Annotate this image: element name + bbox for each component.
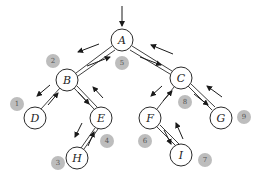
arrow-c-to-a xyxy=(151,45,173,54)
badge-3: 3 xyxy=(51,156,65,170)
node-a: A xyxy=(111,29,133,51)
traversal-arrows xyxy=(37,44,222,146)
node-i: I xyxy=(170,144,192,166)
tree-diagram: A B C D E F G H I 1 2 3 xyxy=(0,0,259,183)
node-label-g: G xyxy=(217,112,226,125)
edge-c-g xyxy=(188,86,212,110)
arrow-e-to-b xyxy=(93,87,103,98)
node-label-c: C xyxy=(177,72,186,85)
badge-2: 2 xyxy=(46,54,60,68)
badge-label-5: 5 xyxy=(120,59,124,67)
node-c: C xyxy=(170,67,192,89)
badge-label-8: 8 xyxy=(183,98,187,106)
node-d: D xyxy=(24,107,46,129)
node-e: E xyxy=(90,107,112,129)
edge-a-b-inner xyxy=(78,50,115,76)
badge-9: 9 xyxy=(237,110,251,124)
badge-5: 5 xyxy=(115,56,129,70)
arrow-e-to-h xyxy=(75,123,82,137)
arrow-f-to-c xyxy=(163,91,172,101)
node-h: H xyxy=(66,147,88,169)
edge-b-d xyxy=(41,88,60,109)
badge-8: 8 xyxy=(178,95,192,109)
arrow-b-to-a xyxy=(87,57,110,66)
arrow-i-to-f xyxy=(176,123,183,139)
edge-c-g-inner xyxy=(191,84,215,107)
arrow-b-to-d xyxy=(37,85,50,96)
node-label-i: I xyxy=(178,149,184,162)
edge-a-c xyxy=(132,46,172,71)
badge-label-2: 2 xyxy=(51,57,55,65)
badge-7: 7 xyxy=(198,153,212,167)
node-label-h: H xyxy=(71,152,82,165)
node-b: B xyxy=(56,69,78,91)
arrow-g-to-c xyxy=(207,86,222,97)
arrow-c-to-g xyxy=(194,94,208,105)
node-label-b: B xyxy=(62,74,71,87)
badge-label-6: 6 xyxy=(143,137,148,145)
badge-label-4: 4 xyxy=(105,137,110,145)
arrow-b-to-e xyxy=(78,92,89,104)
badge-label-7: 7 xyxy=(203,156,207,164)
edge-a-b xyxy=(76,46,112,73)
node-label-d: D xyxy=(30,112,40,125)
node-f: F xyxy=(139,107,161,129)
arrow-a-to-c xyxy=(140,57,161,65)
arrow-c-to-f xyxy=(151,86,162,96)
badge-label-3: 3 xyxy=(56,159,60,167)
badge-6: 6 xyxy=(138,134,152,148)
node-label-e: E xyxy=(96,112,105,125)
badge-1: 1 xyxy=(10,97,24,111)
badge-label-1: 1 xyxy=(15,100,19,108)
node-label-a: A xyxy=(117,34,126,47)
arrow-a-to-b xyxy=(78,44,99,52)
edge-b-e-inner xyxy=(77,86,97,107)
node-label-f: F xyxy=(145,112,154,125)
edge-a-c-inner xyxy=(130,50,170,74)
node-g: G xyxy=(210,107,232,129)
edge-f-i xyxy=(157,127,176,146)
badge-4: 4 xyxy=(100,134,114,148)
badge-label-9: 9 xyxy=(242,113,246,121)
